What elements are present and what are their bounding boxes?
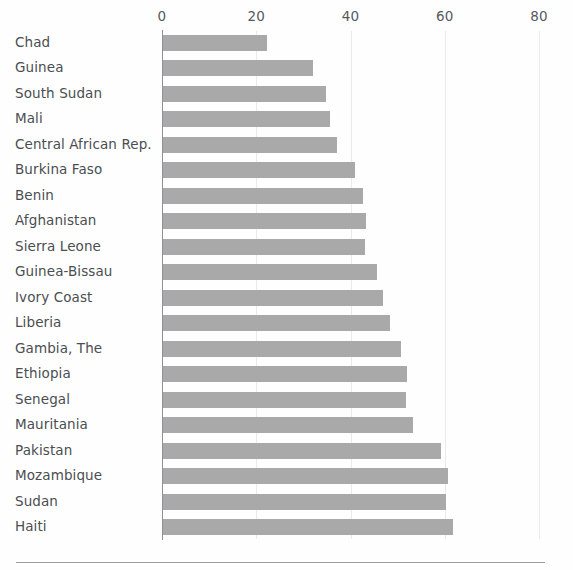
x-tick-label-0: 0 — [158, 8, 167, 24]
footer-divider — [16, 562, 545, 563]
bar-row: Liberia — [0, 311, 573, 337]
category-label: South Sudan — [15, 87, 102, 101]
category-label: Sierra Leone — [15, 240, 101, 254]
category-label: Ivory Coast — [15, 291, 92, 305]
bar-row: Haiti — [0, 515, 573, 541]
bar-row: Mozambique — [0, 464, 573, 490]
bar-row: Gambia, The — [0, 336, 573, 362]
bar — [163, 162, 355, 178]
bar-row: Afghanistan — [0, 209, 573, 235]
category-label: Sudan — [15, 495, 58, 509]
category-label: Guinea — [15, 62, 64, 76]
category-label: Gambia, The — [15, 342, 102, 356]
category-label: Central African Rep. — [15, 138, 152, 152]
bar — [163, 213, 366, 229]
category-label: Afghanistan — [15, 215, 96, 229]
bar-row: Chad — [0, 30, 573, 56]
bar — [163, 494, 446, 510]
category-label: Mozambique — [15, 470, 102, 484]
bar-row: Mali — [0, 107, 573, 133]
bar — [163, 264, 377, 280]
bar — [163, 60, 313, 76]
bar — [163, 392, 406, 408]
bar — [163, 111, 330, 127]
bar — [163, 315, 390, 331]
bar-row: Ethiopia — [0, 362, 573, 388]
bar-row: Pakistan — [0, 438, 573, 464]
bar — [163, 86, 326, 102]
bar — [163, 417, 413, 433]
bar-chart-figure: 020406080 ChadGuineaSouth SudanMaliCentr… — [0, 0, 573, 570]
bar — [163, 443, 441, 459]
bar-row: Sudan — [0, 489, 573, 515]
x-tick-label-20: 20 — [247, 8, 265, 24]
category-label: Mali — [15, 113, 43, 127]
bar — [163, 341, 401, 357]
category-label: Senegal — [15, 393, 70, 407]
bar-row: South Sudan — [0, 81, 573, 107]
x-tick-label-60: 60 — [436, 8, 454, 24]
bar — [163, 468, 448, 484]
category-label: Chad — [15, 36, 50, 50]
category-label: Guinea-Bissau — [15, 266, 113, 280]
category-label: Benin — [15, 189, 54, 203]
bar-row: Ivory Coast — [0, 285, 573, 311]
category-label: Pakistan — [15, 444, 72, 458]
bar-row: Mauritania — [0, 413, 573, 439]
bar-rows: ChadGuineaSouth SudanMaliCentral African… — [0, 30, 573, 540]
category-label: Haiti — [15, 521, 47, 535]
bar-row: Sierra Leone — [0, 234, 573, 260]
x-tick-label-80: 80 — [530, 8, 548, 24]
bar — [163, 519, 453, 535]
bar — [163, 290, 383, 306]
bar-row: Guinea — [0, 56, 573, 82]
bar-row: Benin — [0, 183, 573, 209]
category-label: Burkina Faso — [15, 164, 102, 178]
category-label: Liberia — [15, 317, 61, 331]
bar-row: Senegal — [0, 387, 573, 413]
bar-row: Guinea-Bissau — [0, 260, 573, 286]
category-label: Ethiopia — [15, 368, 71, 382]
bar — [163, 188, 363, 204]
bar — [163, 137, 337, 153]
bar — [163, 35, 267, 51]
category-label: Mauritania — [15, 419, 88, 433]
bar-row: Central African Rep. — [0, 132, 573, 158]
bar — [163, 239, 365, 255]
bar-row: Burkina Faso — [0, 158, 573, 184]
bar — [163, 366, 407, 382]
x-tick-label-40: 40 — [342, 8, 360, 24]
